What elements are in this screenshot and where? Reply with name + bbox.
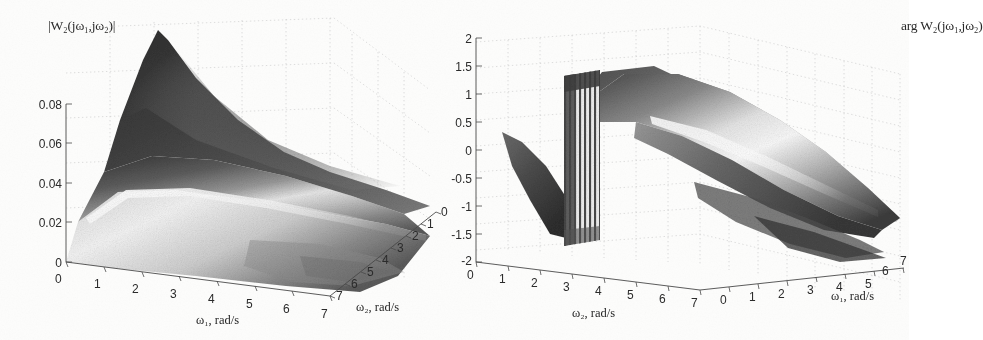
phase-ytick-6: 6: [659, 292, 666, 306]
magnitude-ztick-0: 0.08: [14, 98, 62, 112]
phase-ytick-5: 5: [627, 288, 634, 302]
phase-xtick-6: 6: [882, 264, 889, 278]
magnitude-y-axis-label: ω₂, rad/s: [356, 300, 399, 315]
magnitude-xtick-6: 6: [283, 302, 290, 316]
magnitude-ytick-5: 5: [367, 265, 374, 279]
magnitude-ytick-4: 4: [382, 253, 389, 267]
phase-ytick-0: 0: [467, 268, 474, 282]
phase-x-axis-label: ω₁, rad/s: [831, 289, 874, 304]
magnitude-ytick-3: 3: [397, 241, 404, 255]
phase-ztick-2: 1: [430, 88, 472, 102]
magnitude-xtick-2: 2: [132, 282, 139, 296]
phase-xtick-7: 7: [900, 254, 907, 268]
phase-ytick-1: 1: [499, 272, 506, 286]
magnitude-ztick-2: 0.04: [14, 177, 62, 191]
phase-xtick-2: 2: [778, 287, 785, 301]
magnitude-xtick-0: 0: [55, 272, 62, 286]
phase-ztick-1: 1.5: [430, 60, 472, 74]
magnitude-ztick-3: 0.02: [14, 216, 62, 230]
phase-xtick-3: 3: [807, 283, 814, 297]
magnitude-xtick-7: 7: [321, 307, 328, 321]
magnitude-x-axis-label: ω₁, rad/s: [196, 313, 239, 328]
phase-ztick-7: -1.5: [430, 228, 472, 242]
phase-ytick-4: 4: [595, 284, 602, 298]
phase-ytick-7: 7: [691, 296, 698, 310]
phase-ztick-4: 0: [430, 144, 472, 158]
phase-plot-title: arg W₂(jω₁,jω₂): [901, 18, 983, 34]
phase-ytick-3: 3: [563, 280, 570, 294]
phase-xtick-0: 0: [720, 293, 727, 307]
magnitude-xtick-3: 3: [170, 287, 177, 301]
magnitude-xtick-4: 4: [208, 292, 215, 306]
magnitude-surface: [66, 30, 430, 292]
magnitude-ztick-1: 0.06: [14, 137, 62, 151]
phase-xtick-1: 1: [749, 290, 756, 304]
magnitude-plot-canvas: [0, 0, 455, 340]
phase-ztick-5: -0.5: [430, 172, 472, 186]
magnitude-xtick-5: 5: [246, 297, 253, 311]
magnitude-ytick-6: 6: [351, 277, 358, 291]
phase-ytick-2: 2: [531, 276, 538, 290]
magnitude-ztick-4: 0: [14, 256, 62, 270]
phase-ztick-8: -2: [430, 254, 472, 268]
magnitude-ytick-7: 7: [336, 289, 343, 303]
phase-ztick-3: 0.5: [430, 116, 472, 130]
phase-ztick-6: -1: [430, 200, 472, 214]
phase-ztick-0: 2: [430, 32, 472, 46]
phase-surface-panel: arg W₂(jω₁,jω₂): [454, 0, 909, 340]
magnitude-ytick-2: 2: [412, 229, 419, 243]
phase-y-axis-label: ω₂, rad/s: [572, 306, 615, 321]
magnitude-xtick-1: 1: [94, 277, 101, 291]
magnitude-surface-panel: |W₂(jω₁,jω₂)|: [0, 0, 455, 340]
